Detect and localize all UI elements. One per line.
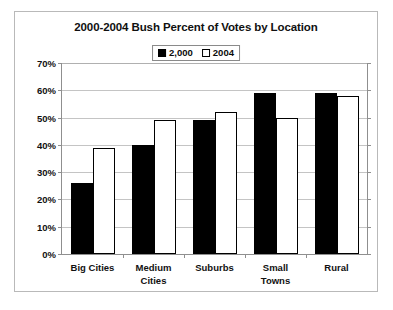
y-axis-tick-mark-right (367, 145, 371, 146)
bar-2004-0[interactable] (93, 148, 115, 254)
chart-legend: 2,000 2004 (152, 45, 240, 61)
y-axis-tick-mark (58, 63, 62, 64)
x-axis-group-separator (184, 254, 185, 258)
legend-label-2004: 2004 (213, 47, 234, 58)
x-axis-group-separator (306, 254, 307, 258)
y-axis-tick-mark (58, 227, 62, 228)
y-axis-tick-label: 70% (37, 58, 56, 69)
y-axis-tick-label: 50% (37, 112, 56, 123)
y-axis-tick-mark (58, 118, 62, 119)
x-axis-group-separator (123, 254, 124, 258)
y-axis-tick-label: 40% (37, 139, 56, 150)
y-axis-tick-label: 30% (37, 167, 56, 178)
y-axis-tick-label: 20% (37, 194, 56, 205)
y-axis-tick-mark (58, 199, 62, 200)
bar-group: Suburbs (193, 63, 237, 254)
y-axis-tick-mark (58, 254, 62, 255)
y-axis-tick-label: 60% (37, 85, 56, 96)
legend-label-2000: 2,000 (169, 47, 193, 58)
y-axis-tick-mark (58, 145, 62, 146)
y-axis-tick-mark-right (367, 118, 371, 119)
bar-2004-1[interactable] (154, 120, 176, 254)
bar-2004-3[interactable] (276, 118, 298, 254)
y-axis-tick-label: 10% (37, 221, 56, 232)
chart-frame: 2000-2004 Bush Percent of Votes by Locat… (14, 11, 378, 292)
bar-2000-4[interactable] (315, 93, 337, 254)
y-axis-tick-label: 0% (42, 249, 56, 260)
y-axis-tick-mark (58, 90, 62, 91)
x-axis-category-line: Rural (287, 261, 387, 274)
y-axis-tick-mark-right (367, 63, 371, 64)
bar-2000-3[interactable] (254, 93, 276, 254)
legend-swatch-2004-icon (202, 49, 210, 57)
bar-2004-4[interactable] (337, 96, 359, 254)
bar-group: Rural (315, 63, 359, 254)
bar-group: MediumCities (132, 63, 176, 254)
bar-2000-1[interactable] (132, 145, 154, 254)
x-axis-category-line: Cities (104, 274, 204, 287)
x-axis-category-line: Towns (226, 274, 326, 287)
y-axis-tick-mark-right (367, 172, 371, 173)
y-axis-tick-mark-right (367, 90, 371, 91)
bar-2000-2[interactable] (193, 120, 215, 254)
legend-swatch-2000-icon (158, 49, 166, 57)
bar-2004-2[interactable] (215, 112, 237, 254)
x-axis-category-label: Rural (287, 261, 387, 274)
bar-group: Big Cities (71, 63, 115, 254)
bar-2000-0[interactable] (71, 183, 93, 254)
chart-title: 2000-2004 Bush Percent of Votes by Locat… (15, 21, 377, 33)
legend-item-2004[interactable]: 2004 (202, 47, 234, 58)
y-axis-tick-mark-right (367, 199, 371, 200)
y-axis-tick-mark (58, 172, 62, 173)
y-axis-tick-mark-right (367, 227, 371, 228)
x-axis-group-separator (245, 254, 246, 258)
y-axis-tick-mark-right (367, 254, 371, 255)
plot-area: 0%10%20%30%40%50%60%70%Big CitiesMediumC… (61, 63, 368, 255)
legend-item-2000[interactable]: 2,000 (158, 47, 193, 58)
bar-group: SmallTowns (254, 63, 298, 254)
